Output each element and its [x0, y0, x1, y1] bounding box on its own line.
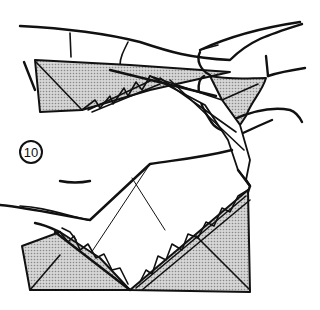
step-number-badge: 10 [19, 140, 43, 164]
origami-step-diagram [0, 0, 320, 310]
lower-left-flap [22, 228, 130, 290]
step-number: 10 [24, 145, 38, 160]
lower-right-flap [130, 190, 250, 292]
